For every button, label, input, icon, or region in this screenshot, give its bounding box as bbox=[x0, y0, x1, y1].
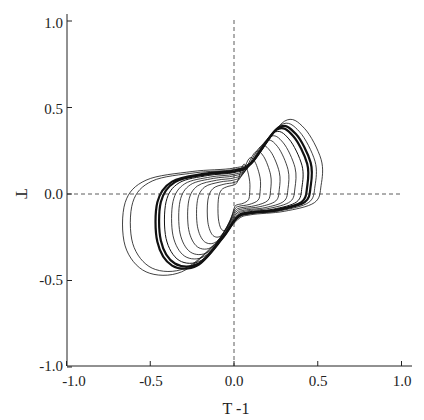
y-tick-label: -0.5 bbox=[39, 272, 63, 288]
y-tick-label: 0.0 bbox=[44, 186, 63, 202]
phase-portrait-chart: -1.0 -0.5 0.0 0.5 1.0 1.0 0.5 0.0 -0.5 -… bbox=[0, 0, 424, 420]
x-axis-label: T -1 bbox=[223, 400, 250, 417]
y-tick-label: -1.0 bbox=[39, 358, 63, 374]
y-axis-label: T bbox=[13, 189, 30, 199]
x-tick-label: -0.5 bbox=[139, 373, 163, 389]
x-tick-label: 0.0 bbox=[225, 373, 244, 389]
x-tick-label: 0.5 bbox=[309, 373, 328, 389]
x-tick-label: -1.0 bbox=[62, 373, 86, 389]
x-tick-label: 1.0 bbox=[393, 373, 412, 389]
trajectory-curves bbox=[123, 119, 323, 275]
y-tick-label: 0.5 bbox=[44, 101, 63, 117]
y-tick-label: 1.0 bbox=[44, 15, 63, 31]
trajectory-loop bbox=[123, 119, 323, 275]
